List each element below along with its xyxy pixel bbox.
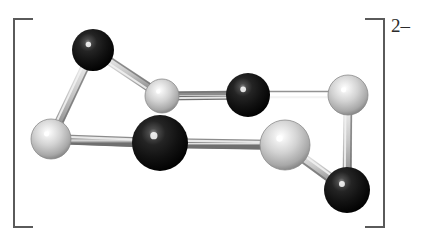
light-atom-left — [31, 119, 71, 159]
light-atom-top-mid — [145, 79, 179, 113]
molecular-structure-figure: 2– — [0, 0, 427, 234]
light-atom-top-right — [328, 75, 368, 115]
molecule-ball-and-stick — [0, 0, 427, 234]
dark-atom-bottom-right — [324, 167, 370, 213]
dark-atom-top-left — [72, 29, 114, 71]
dark-atom-top-mid — [226, 73, 270, 117]
atom-layer — [31, 29, 370, 213]
dark-atom-center — [132, 115, 188, 171]
light-atom-bottom-right — [260, 120, 310, 170]
